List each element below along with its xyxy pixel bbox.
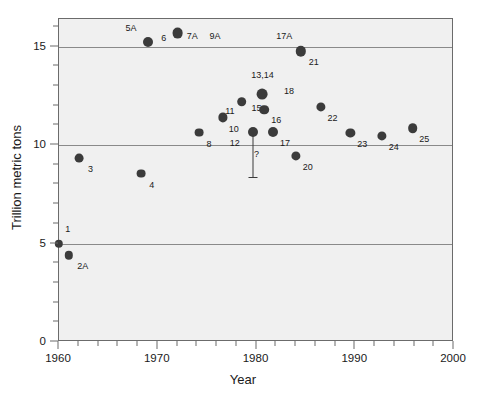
y-axis-tick-major [50, 45, 58, 46]
x-axis-tick-major [453, 341, 454, 349]
y-axis-title: Trillion metric tons [9, 68, 24, 288]
scatter-chart-figure: 12A345A67A9A810111213,1415161717A1820212… [0, 0, 486, 398]
x-axis-tick-minor [413, 341, 414, 346]
y-axis-tick-label: 10 [33, 138, 46, 150]
data-point-label: 8 [207, 139, 212, 149]
data-point-label: 3 [88, 164, 93, 174]
data-point-label: 6 [161, 33, 166, 43]
data-point-label: 11 [225, 106, 234, 116]
y-axis-tick-minor [53, 203, 58, 204]
x-axis-tick-label: 1960 [45, 352, 71, 364]
y-axis-tick-minor [53, 163, 58, 164]
x-axis-tick-minor [314, 341, 315, 346]
data-point-marker [257, 88, 268, 99]
x-axis-tick-minor [393, 341, 394, 346]
x-axis-tick-minor [235, 341, 236, 346]
data-point-label: 21 [309, 57, 319, 67]
data-point-label: 1 [65, 224, 70, 234]
data-point-label: 25 [419, 134, 429, 144]
x-axis-tick-minor [97, 341, 98, 346]
x-axis-title: Year [0, 372, 486, 387]
y-axis-tick-minor [53, 301, 58, 302]
y-axis-tick-minor [53, 124, 58, 125]
data-point-label: 7A [187, 31, 198, 41]
data-point-marker [296, 46, 306, 56]
data-point-label: 17A [276, 31, 292, 41]
y-axis-tick-minor [53, 262, 58, 263]
x-axis-tick-major [255, 341, 256, 349]
data-point-label: 4 [149, 180, 154, 190]
data-point-label: 22 [328, 113, 338, 123]
x-axis-tick-major [354, 341, 355, 349]
error-bar-cap [248, 177, 257, 178]
x-axis-tick-major [58, 341, 59, 349]
x-axis-tick-minor [176, 341, 177, 346]
data-point-marker [408, 124, 418, 134]
data-point-marker [237, 97, 247, 107]
y-axis-tick-major [50, 242, 58, 243]
x-axis-tick-major [156, 341, 157, 349]
x-axis-tick-minor [433, 341, 434, 346]
y-axis-tick-major [50, 144, 58, 145]
gridline-y [59, 244, 452, 245]
data-point-marker [291, 151, 300, 160]
x-axis-tick-minor [295, 341, 296, 346]
data-point-label: 10 [229, 124, 239, 134]
data-point-marker [65, 251, 73, 259]
y-axis-tick-minor [53, 222, 58, 223]
data-point-label: 23 [357, 139, 367, 149]
data-point-marker [137, 169, 146, 178]
x-axis-tick-minor [196, 341, 197, 346]
x-axis-tick-minor [216, 341, 217, 346]
y-axis-tick-minor [53, 84, 58, 85]
x-axis-tick-minor [77, 341, 78, 346]
data-point-label: 5A [126, 23, 137, 33]
y-axis-tick-minor [53, 183, 58, 184]
y-axis-tick-minor [53, 65, 58, 66]
x-axis-tick-minor [137, 341, 138, 346]
data-point-label: 18 [284, 86, 294, 96]
data-point-label: 20 [303, 162, 313, 172]
y-axis-tick-label: 15 [33, 40, 46, 52]
data-point-marker [346, 129, 355, 138]
y-axis-tick-minor [53, 25, 58, 26]
y-axis-tick-label: 0 [40, 335, 46, 347]
x-axis-tick-label: 1990 [341, 352, 367, 364]
data-point-label: 16 [271, 115, 281, 125]
data-point-label: 9A [210, 31, 221, 41]
x-axis-tick-minor [275, 341, 276, 346]
x-axis-tick-minor [334, 341, 335, 346]
x-axis-tick-label: 1970 [144, 352, 170, 364]
y-axis-tick-label: 5 [40, 237, 46, 249]
error-bar-line [252, 132, 253, 176]
error-bar-label: ? [254, 149, 259, 159]
gridline-y [59, 47, 452, 48]
data-point-marker [172, 27, 183, 38]
data-point-label: 12 [230, 138, 240, 148]
y-axis-tick-minor [53, 104, 58, 105]
data-point-marker [268, 127, 278, 137]
y-axis-tick-minor [53, 281, 58, 282]
data-point-marker [260, 105, 270, 115]
x-axis-tick-label: 2000 [440, 352, 466, 364]
data-point-marker [74, 153, 83, 162]
data-point-marker [377, 132, 386, 141]
plot-area: 12A345A67A9A810111213,1415161717A1820212… [58, 18, 453, 341]
data-point-label: 13,14 [251, 70, 274, 80]
x-axis-tick-minor [117, 341, 118, 346]
x-axis-tick-minor [374, 341, 375, 346]
x-axis-tick-label: 1980 [243, 352, 269, 364]
data-point-label: 17 [280, 138, 290, 148]
data-point-label: 24 [389, 142, 399, 152]
data-point-marker [316, 102, 325, 111]
y-axis-tick-minor [53, 321, 58, 322]
data-point-label: 2A [77, 261, 88, 271]
data-point-marker [195, 128, 204, 137]
data-point-marker [55, 239, 63, 247]
data-point-marker [143, 37, 153, 47]
